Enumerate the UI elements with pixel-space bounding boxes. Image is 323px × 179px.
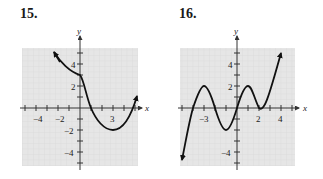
svg-text:−4: −4 [64, 148, 74, 158]
svg-text:4: 4 [228, 60, 233, 70]
svg-text:2: 2 [228, 82, 233, 92]
graph-16: −324 42 −4 x y [178, 26, 307, 170]
svg-text:3: 3 [110, 114, 115, 124]
svg-text:y: y [76, 26, 81, 36]
svg-text:x: x [302, 103, 307, 113]
svg-text:4: 4 [278, 114, 283, 124]
graphs-canvas: −4−23 42 −2−4 x y −324 42 −4 [0, 0, 323, 179]
svg-text:−4: −4 [221, 148, 231, 158]
svg-text:4: 4 [71, 60, 76, 70]
svg-text:−2: −2 [55, 114, 65, 124]
svg-text:2: 2 [71, 82, 76, 92]
svg-text:x: x [144, 103, 149, 113]
svg-text:−2: −2 [64, 126, 74, 136]
svg-text:−4: −4 [33, 114, 43, 124]
svg-text:2: 2 [256, 114, 261, 124]
svg-text:y: y [233, 26, 238, 36]
svg-text:−3: −3 [199, 114, 209, 124]
graph-15: −4−23 42 −2−4 x y [20, 26, 149, 170]
